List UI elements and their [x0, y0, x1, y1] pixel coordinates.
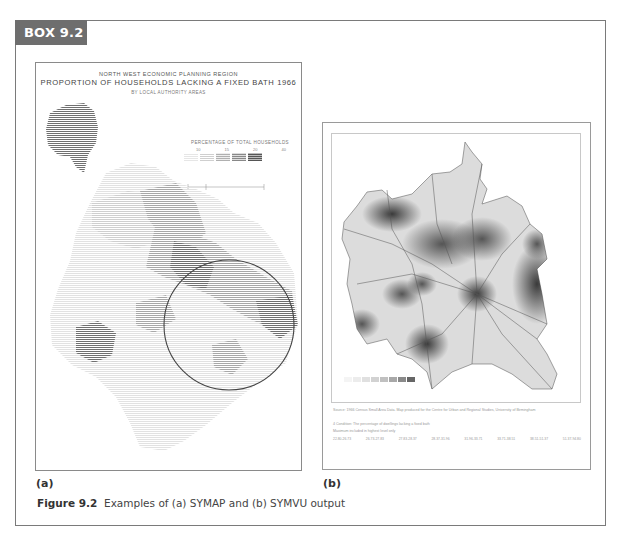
class-range: 51.37-94.80 — [563, 437, 581, 441]
class-range: 31.96-33.71 — [464, 437, 482, 441]
figure-caption: Figure 9.2 Examples of (a) SYMAP and (b)… — [37, 497, 345, 509]
panel-b-label: (b) — [323, 477, 341, 490]
box-label: BOX 9.2 — [15, 20, 87, 45]
legend-swatch — [362, 377, 370, 382]
panel-a-label: (a) — [36, 477, 53, 490]
class-range: 33.71-38.51 — [497, 437, 515, 441]
symvu-map-frame — [331, 133, 581, 403]
legend-swatch — [344, 377, 352, 382]
symvu-maximum-note: Maximum included in highest level only — [333, 429, 395, 433]
class-range: 22.80-26.73 — [333, 437, 351, 441]
symvu-map — [332, 134, 582, 404]
legend-swatch — [353, 377, 361, 382]
class-range: 27.83-28.37 — [399, 437, 417, 441]
symvu-source-note: Source: 1966 Census Small Area Data. Map… — [333, 408, 536, 412]
class-range: 26.73-27.83 — [366, 437, 384, 441]
legend-swatch — [389, 377, 397, 382]
legend-swatch — [380, 377, 388, 382]
symap-panel: NORTH WEST ECONOMIC PLANNING REGION PROP… — [35, 62, 302, 471]
symvu-legend — [344, 377, 415, 382]
legend-swatch — [407, 377, 415, 382]
class-range: 28.37-31.96 — [431, 437, 449, 441]
figure-caption-text: Examples of (a) SYMAP and (b) SYMVU outp… — [104, 497, 345, 509]
legend-swatch — [398, 377, 406, 382]
class-range: 38.51-51.37 — [530, 437, 548, 441]
legend-swatch — [371, 377, 379, 382]
symvu-panel: Source: 1966 Census Small Area Data. Map… — [322, 122, 591, 470]
figure-number: Figure 9.2 — [37, 497, 97, 509]
symvu-class-ranges: 22.80-26.73 26.73-27.83 27.83-28.37 28.3… — [333, 437, 581, 441]
symvu-condition-note: 4 Condition: The percentage of dwellings… — [333, 422, 430, 426]
symap-map — [36, 63, 303, 472]
